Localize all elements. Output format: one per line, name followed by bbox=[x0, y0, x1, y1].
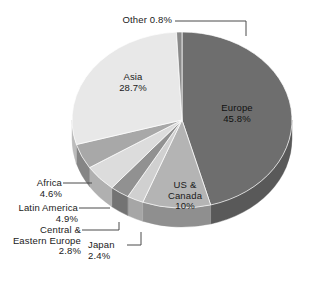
slice-label-africa-value: 4.6% bbox=[0, 189, 62, 200]
slice-label-asia: Asia 28.7% bbox=[102, 72, 164, 93]
slice-label-central-eastern-europe: Central & Eastern Europe 2.8% bbox=[0, 225, 81, 257]
slice-label-latin-america: Latin America 4.9% bbox=[0, 203, 78, 224]
slice-label-asia-name: Asia bbox=[102, 72, 164, 83]
slice-label-asia-value: 28.7% bbox=[102, 83, 164, 94]
slice-label-europe-value: 45.8% bbox=[208, 114, 266, 125]
slice-label-other: Other 0.8% bbox=[72, 15, 172, 26]
slice-label-latin-america-name: Latin America bbox=[0, 203, 78, 214]
slice-label-us-canada-value: 10% bbox=[155, 201, 215, 212]
slice-label-cee-line1: Central & bbox=[0, 225, 81, 236]
slice-label-africa: Africa 4.6% bbox=[0, 178, 62, 199]
slice-label-europe-name: Europe bbox=[208, 103, 266, 114]
slice-label-cee-value: 2.8% bbox=[0, 246, 81, 257]
pie-chart: Other 0.8% Asia 28.7% Europe 45.8% US & … bbox=[0, 0, 317, 283]
slice-label-other-text: Other 0.8% bbox=[122, 14, 172, 25]
slice-label-japan: Japan 2.4% bbox=[88, 240, 134, 261]
slice-label-japan-name: Japan bbox=[88, 240, 134, 251]
slice-label-us-canada-line1: US & bbox=[155, 180, 215, 191]
slice-label-africa-name: Africa bbox=[0, 178, 62, 189]
leader-line-central-eastern-europe bbox=[82, 222, 119, 230]
slice-label-europe: Europe 45.8% bbox=[208, 103, 266, 124]
slice-label-us-canada: US & Canada 10% bbox=[155, 180, 215, 212]
slice-label-japan-value: 2.4% bbox=[88, 251, 134, 262]
slice-label-latin-america-value: 4.9% bbox=[0, 214, 78, 225]
